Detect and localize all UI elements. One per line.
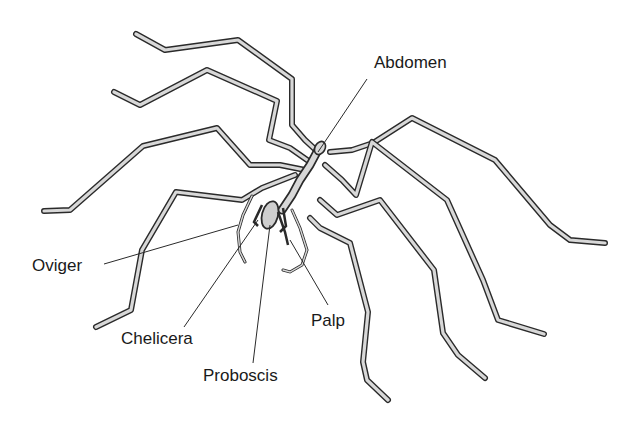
leader-chelicera (184, 220, 258, 327)
leader-proboscis (253, 225, 270, 363)
chelicera-part (254, 205, 262, 226)
label-proboscis: Proboscis (203, 367, 278, 384)
label-chelicera: Chelicera (121, 330, 193, 347)
leader-oviger (104, 225, 238, 264)
sea-spider-illustration (0, 0, 635, 431)
label-abdomen: Abdomen (374, 54, 447, 71)
sea-spider-diagram: Abdomen Oviger Chelicera Proboscis Palp (0, 0, 635, 431)
body (238, 139, 328, 272)
leader-abdomen (318, 79, 367, 152)
leader-palp (290, 240, 328, 305)
label-palp: Palp (311, 312, 345, 329)
label-oviger: Oviger (32, 257, 82, 274)
